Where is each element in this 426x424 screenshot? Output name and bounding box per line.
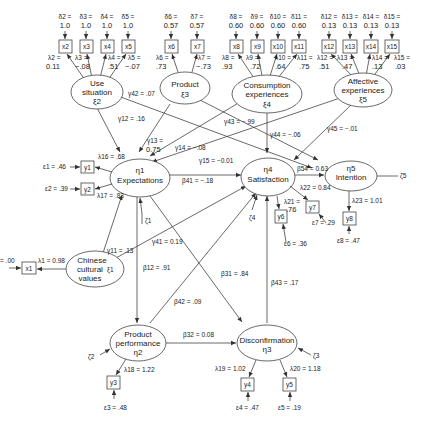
lambda22: λ22 = 0.84	[300, 184, 331, 191]
lambda-x6-value: .73	[156, 62, 166, 71]
eta2-symbol: η2	[134, 348, 143, 357]
gamma13-value: 0.75	[146, 145, 161, 154]
latent-affective-experiences: Affective experiences ξ5	[334, 73, 392, 107]
lambda18: λ18 = 1.22	[124, 366, 155, 373]
xi3-symbol: ξ3	[181, 90, 190, 99]
gamma45: γ45 = −.01	[327, 125, 358, 133]
x12-label: x12	[324, 43, 335, 50]
svg-text:experiences: experiences	[341, 86, 384, 95]
eps5: ε5 = .19	[278, 404, 301, 411]
lambda17: λ17 = .83	[97, 192, 124, 199]
lambda-x5-value: −.07	[125, 62, 140, 71]
x14-label: x14	[366, 43, 377, 50]
x-indicator-group-affective: δ12 = 0.13 x12 δ13 = 0.13 x13 δ14 = 0.13…	[317, 13, 410, 78]
lambda-x8-label: λ8 =	[222, 54, 235, 61]
eps6: ε6 = .36	[284, 240, 307, 247]
zeta2: ζ2	[88, 353, 95, 361]
y4-indicator: y4 λ19 = 1.02 ε4 = .47	[215, 360, 259, 411]
delta-x7-value: 0.57	[190, 21, 205, 30]
delta-x11-label: δ11 =	[291, 13, 307, 20]
x10-label: x10	[273, 43, 284, 50]
x1-indicator: x1 = .00 λ1 = 0.98	[0, 257, 66, 274]
xi5-symbol: ξ5	[359, 95, 368, 104]
delta-x6-label: δ6 =	[165, 13, 178, 20]
svg-text:y1: y1	[84, 164, 91, 172]
delta-x14-label: δ14 =	[363, 13, 380, 20]
lambda-x9-value: .72	[250, 62, 260, 71]
svg-text:y3: y3	[110, 379, 117, 387]
svg-text:performance: performance	[116, 339, 161, 348]
zeta3: ζ3	[313, 352, 320, 360]
svg-text:Product: Product	[124, 330, 152, 339]
latent-disconfirmation: Disconfirmation η3	[237, 325, 297, 361]
x7-label: x7	[194, 43, 201, 50]
lambda23: λ23 = 1.01	[352, 197, 383, 204]
x5-label: x5	[125, 43, 132, 50]
x2-label: x2	[62, 43, 69, 50]
lambda-x10-label: λ10 =	[275, 54, 291, 61]
lambda-x3-value: −.08	[75, 62, 90, 71]
beta12: β12 = .91	[143, 264, 171, 272]
delta-x3-label: δ3 =	[80, 13, 93, 20]
svg-text:Use: Use	[90, 79, 105, 88]
eta5-symbol: η5	[347, 164, 356, 173]
lambda-x10-value: .64	[275, 62, 285, 71]
eta1-label: Expectations	[117, 176, 163, 185]
xi2-symbol: ξ2	[93, 97, 102, 106]
lambda1: λ1 = 0.98	[38, 257, 65, 264]
gamma12: γ12 = .16	[118, 115, 145, 123]
delta-x2-label: δ2 =	[59, 13, 72, 20]
sem-path-diagram: δ2 = 1.0 x2 δ3 = 1.0 x3 δ4 = 1.0 x4 δ5 =…	[0, 0, 426, 424]
eps7: ε7 = .29	[312, 219, 335, 226]
lambda16: λ16 = .68	[98, 153, 125, 160]
gamma41: γ41 = 0.19	[152, 238, 183, 246]
lambda20: λ20 = 1.18	[290, 365, 321, 372]
x9-label: x9	[254, 43, 261, 50]
x4-label: x4	[104, 43, 111, 50]
lambda-x12-value: .51	[319, 62, 329, 71]
lambda-x12-label: λ12 =	[317, 54, 333, 61]
delta-x9-value: 0.60	[250, 21, 265, 30]
eps1: ε1 = .46	[43, 163, 66, 170]
beta31: β31 = .84	[221, 270, 249, 278]
delta-x6-value: 0.57	[164, 21, 179, 30]
lambda-x14-value: .13	[372, 62, 382, 71]
eta1-symbol: η1	[136, 166, 145, 175]
zeta5: ζ5	[400, 172, 407, 180]
delta-x7-label: δ7 =	[191, 13, 204, 20]
delta1: = .00	[0, 257, 15, 264]
latent-consumption-experiences: Consumption experiences ξ4	[232, 75, 302, 113]
eta4-label: Satisfaction	[247, 175, 288, 184]
x8-label: x8	[233, 43, 240, 50]
svg-text:y7: y7	[309, 204, 316, 212]
lambda-x2-label: λ2 =	[48, 54, 61, 61]
lambda-x7-value: −.73	[196, 62, 211, 71]
latent-chinese-cultural-values: Chinese cultural values ξ1	[66, 251, 124, 287]
lambda-x3-label: λ3 =	[75, 54, 88, 61]
lambda-x2-value: 0.11	[46, 62, 60, 71]
y6-indicator: y6 λ21 = .76 ε6 = .36	[275, 196, 307, 247]
xi3-label: Product	[171, 80, 199, 89]
x-indicator-group-consumption: δ8 = 0.60 x8 δ9 = 0.60 x9 δ10 = 0.60 x10…	[222, 13, 313, 78]
gamma43: γ43 = −.99	[224, 118, 255, 126]
lambda-x15-label: λ15 =	[394, 54, 410, 61]
lambda-x9-label: λ9 =	[246, 54, 259, 61]
svg-text:y2: y2	[84, 186, 91, 194]
lambda-x13-value: .47	[342, 62, 352, 71]
y7-indicator: y7 λ22 = 0.84 ε7 = .29	[290, 184, 335, 226]
delta-x4-label: δ4 =	[101, 13, 114, 20]
x-indicator-group-use-situation: δ2 = 1.0 x2 δ3 = 1.0 x3 δ4 = 1.0 x4 δ5 =…	[46, 13, 141, 80]
eps2: ε2 = .39	[45, 185, 68, 192]
latent-satisfaction: η4 Satisfaction	[241, 158, 295, 196]
delta-x4-value: 1.0	[102, 21, 112, 30]
zeta4: ζ4	[249, 214, 256, 222]
svg-text:y8: y8	[346, 215, 353, 223]
beta43: β43 = .17	[271, 279, 299, 287]
delta-x12-value: 0.13	[322, 21, 337, 30]
delta-x15-label: δ15 =	[384, 13, 401, 20]
svg-text:Consumption: Consumption	[243, 81, 290, 90]
latent-product: Product ξ3	[160, 72, 210, 104]
svg-text:experiences: experiences	[245, 90, 288, 99]
path-coefficients: γ12 = .16 γ42 = .07 γ13 = 0.75 γ14 = −.0…	[107, 90, 358, 339]
beta32: β32 = 0.08	[183, 331, 214, 339]
